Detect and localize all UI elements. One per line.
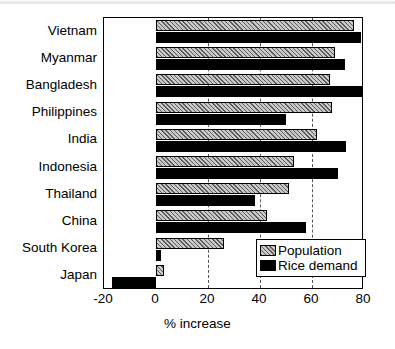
category-label-thailand: Thailand (0, 187, 97, 201)
population-swatch-icon (260, 245, 276, 256)
bar-group (104, 45, 362, 72)
chart-legend: Population Rice demand (256, 239, 366, 277)
bar-group (104, 154, 362, 181)
bar-myanmar-rice-demand (156, 59, 345, 70)
x-tick-label-40: 40 (239, 291, 279, 306)
bar-thailand-rice-demand (156, 195, 255, 206)
x-tick-label-60: 60 (291, 291, 331, 306)
bar-indonesia-rice-demand (156, 168, 338, 179)
category-label-philippines: Philippines (0, 105, 97, 119)
bar-group (104, 18, 362, 45)
category-label-bangladesh: Bangladesh (0, 78, 97, 92)
category-label-china: China (0, 214, 97, 228)
bar-philippines-rice-demand (156, 114, 286, 125)
bar-bangladesh-rice-demand (156, 86, 363, 97)
category-label-south-korea: South Korea (0, 241, 97, 255)
bar-south-korea-rice-demand (156, 250, 161, 261)
bar-group (104, 208, 362, 235)
legend-label-rice-demand: Rice demand (278, 258, 358, 273)
bar-japan-rice-demand (112, 277, 156, 288)
bar-india-rice-demand (156, 141, 346, 152)
category-label-japan: Japan (0, 268, 97, 282)
x-tick-label--20: -20 (83, 291, 123, 306)
bar-philippines-population (156, 102, 332, 113)
bar-vietnam-rice-demand (156, 32, 361, 43)
bar-vietnam-population (156, 20, 354, 31)
bar-japan-population (156, 265, 164, 276)
bar-myanmar-population (156, 47, 335, 58)
bar-chart: VietnamMyanmarBangladeshPhilippinesIndia… (0, 0, 395, 349)
category-label-indonesia: Indonesia (0, 160, 97, 174)
category-label-myanmar: Myanmar (0, 51, 97, 65)
bar-india-population (156, 129, 317, 140)
bar-thailand-population (156, 183, 289, 194)
category-label-india: India (0, 132, 97, 146)
bar-indonesia-population (156, 156, 294, 167)
bar-south-korea-population (156, 238, 224, 249)
legend-item-population: Population (260, 243, 361, 258)
bar-group (104, 127, 362, 154)
bar-china-rice-demand (156, 222, 306, 233)
category-label-vietnam: Vietnam (0, 24, 97, 38)
legend-item-rice-demand: Rice demand (260, 258, 361, 273)
rice-demand-swatch-icon (260, 260, 276, 271)
bar-bangladesh-population (156, 74, 330, 85)
x-tick-label-80: 80 (343, 291, 383, 306)
bar-group (104, 181, 362, 208)
legend-label-population: Population (278, 243, 342, 258)
bar-china-population (156, 210, 267, 221)
x-tick-label-20: 20 (187, 291, 227, 306)
bar-group (104, 100, 362, 127)
bar-group (104, 72, 362, 99)
x-tick-label-0: 0 (135, 291, 175, 306)
x-axis-title: % increase (0, 316, 395, 331)
